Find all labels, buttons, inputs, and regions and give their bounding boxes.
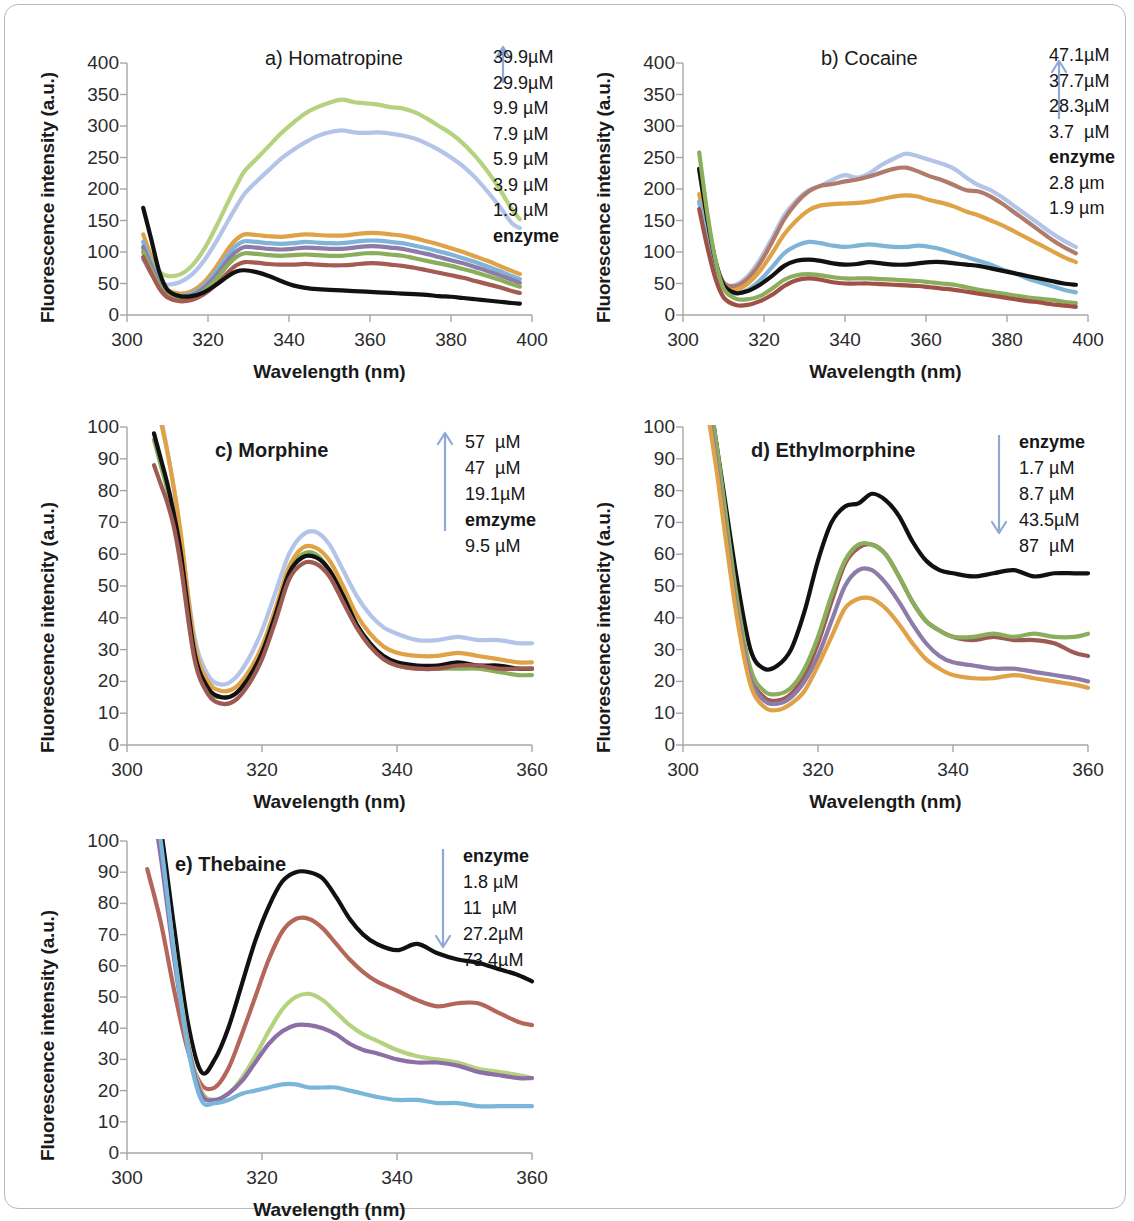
legend-arrow-down-icon [436,849,450,947]
legend-entry: 27.2µM [463,921,529,947]
legend: 47.1µM37.7µM28.3µM3.7 µMenzyme2.8 µm1.9 … [1049,43,1115,222]
legend: enzyme1.8 µM11 µM27.2µM73.4µM [463,843,529,973]
legend-entry: enzyme [463,843,529,869]
spectrum-curve [699,209,1076,307]
panel-e: Fluorescence intensity (a.u.)Wavelength … [15,811,571,1206]
legend-arrow-down-icon [992,435,1006,533]
legend-entry: enzyme [1019,429,1085,455]
legend-entry: 39.9µM [493,45,559,71]
legend-entry: 3.7 µM [1049,120,1115,146]
legend: 39.9µM29.9µM9.9 µM7.9 µM5.9 µM3.9 µM1.9 … [493,45,559,249]
legend-entry: 37.7µM [1049,69,1115,95]
panel-b: Fluorescence intensity (a.u.)Wavelength … [571,15,1127,393]
legend-entry: 73.4µM [463,947,529,973]
legend-entry: emzyme [465,507,536,533]
legend-entry: 1.9 µm [1049,196,1115,222]
panel-a: Fluorescence intensity (a.u.)Wavelength … [15,15,571,393]
legend-entry: 29.9µM [493,71,559,97]
spectrum-curve [699,152,1076,303]
plot-area [571,15,1127,393]
legend-entry: 5.9 µM [493,147,559,173]
legend-entry: 43.5µM [1019,507,1085,533]
legend-entry: 9.5 µM [465,533,536,559]
legend-entry: 47.1µM [1049,43,1115,69]
legend-entry: 1.8 µM [463,869,529,895]
legend: enzyme1.7 µM8.7 µM43.5µM87 µM [1019,429,1085,559]
legend: 57 µM47 µM19.1µMemzyme9.5 µM [465,429,536,559]
panel-c: Fluorescence intencity (a.u.)Wavelength … [15,403,571,801]
legend-entry: 3.9 µM [493,173,559,199]
legend-entry: enzyme [493,224,559,250]
plot-area [15,15,571,393]
legend-entry: 8.7 µM [1019,481,1085,507]
panel-d: Fluorescence intencity (a.u.)Wavelength … [571,403,1127,801]
legend-entry: 1.7 µM [1019,455,1085,481]
legend-entry: 28.3µM [1049,94,1115,120]
legend-entry: 7.9 µM [493,122,559,148]
legend-entry: 1.9 µM [493,198,559,224]
legend-entry: 9.9 µM [493,96,559,122]
legend-entry: 2.8 µm [1049,171,1115,197]
legend-entry: enzyme [1049,145,1115,171]
spectrum-curve [699,167,1076,286]
legend-entry: 47 µM [465,455,536,481]
legend-entry: 57 µM [465,429,536,455]
legend-entry: 11 µM [463,895,529,921]
legend-arrow-up-icon [438,433,452,531]
figure-frame: Fluorescence intensity (a.u.)Wavelength … [4,4,1126,1209]
legend-entry: 87 µM [1019,533,1085,559]
legend-entry: 19.1µM [465,481,536,507]
